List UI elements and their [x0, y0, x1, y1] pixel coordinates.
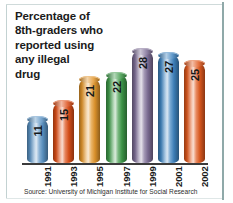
bar-value-label: 11 — [32, 125, 44, 136]
x-axis-line — [22, 163, 208, 165]
bar-top-cap — [53, 100, 74, 107]
bar-value-label: 25 — [189, 69, 201, 81]
bar-group: 28 — [132, 51, 153, 163]
bar-group: 21 — [79, 79, 100, 163]
bar: 15 — [53, 103, 74, 163]
bar-top-cap — [132, 48, 153, 55]
x-axis-tick-label: 1995 — [94, 166, 105, 187]
bar-value-label: 27 — [163, 61, 175, 73]
bar-value-label: 22 — [111, 81, 123, 93]
bar: 11 — [27, 119, 48, 163]
bar-group: 15 — [53, 103, 74, 163]
bar: 21 — [79, 79, 100, 163]
bar-top-cap — [106, 72, 127, 79]
bar-value-label: 21 — [84, 85, 96, 97]
x-axis-tick-label: 1991 — [42, 166, 53, 187]
bar-value-label: 15 — [58, 109, 70, 121]
bar: 25 — [184, 63, 205, 163]
bar-top-cap — [184, 60, 205, 67]
bar-value-label: 28 — [137, 57, 149, 69]
bar-group: 25 — [184, 63, 205, 163]
bar: 22 — [106, 75, 127, 163]
source-note: Source: University of Michigan Institute… — [24, 188, 197, 195]
bar-top-cap — [27, 116, 48, 123]
bar-group: 11 — [27, 119, 48, 163]
chart-figure: Percentage of 8th-graders who reported u… — [0, 0, 233, 203]
x-axis-tick-label: 2001 — [173, 166, 184, 187]
x-axis-tick-label: 1993 — [68, 166, 79, 187]
bar-group: 22 — [106, 75, 127, 163]
bar: 28 — [132, 51, 153, 163]
x-axis-tick-label: 2002 — [199, 166, 210, 187]
bar: 27 — [158, 55, 179, 163]
bar-top-cap — [79, 76, 100, 83]
plot-area: Percentage of 8th-graders who reported u… — [0, 0, 233, 203]
x-axis-tick-label: 1999 — [147, 166, 158, 187]
bar-top-cap — [158, 52, 179, 59]
x-axis-tick-label: 1997 — [121, 166, 132, 187]
bar-group: 27 — [158, 55, 179, 163]
